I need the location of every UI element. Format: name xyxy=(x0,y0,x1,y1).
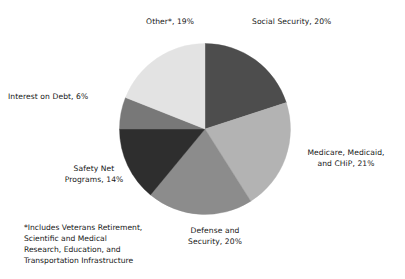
pie-label-medicare-medicaid-chip: Medicare, Medicaid, and CHiP, 21% xyxy=(290,148,402,169)
pie-slice-group xyxy=(120,43,291,214)
chart-footnote: *Includes Veterans Retirement, Scientifi… xyxy=(24,222,194,266)
pie-label-safety-net-programs: Safety Net Programs, 14% xyxy=(38,164,150,185)
pie-chart: Social Security, 20% Medicare, Medicaid,… xyxy=(0,0,405,279)
pie-label-other: Other*, 19% xyxy=(84,17,194,28)
pie-label-social-security: Social Security, 20% xyxy=(252,17,382,28)
pie-label-interest-on-debt: Interest on Debt, 6% xyxy=(8,92,120,103)
